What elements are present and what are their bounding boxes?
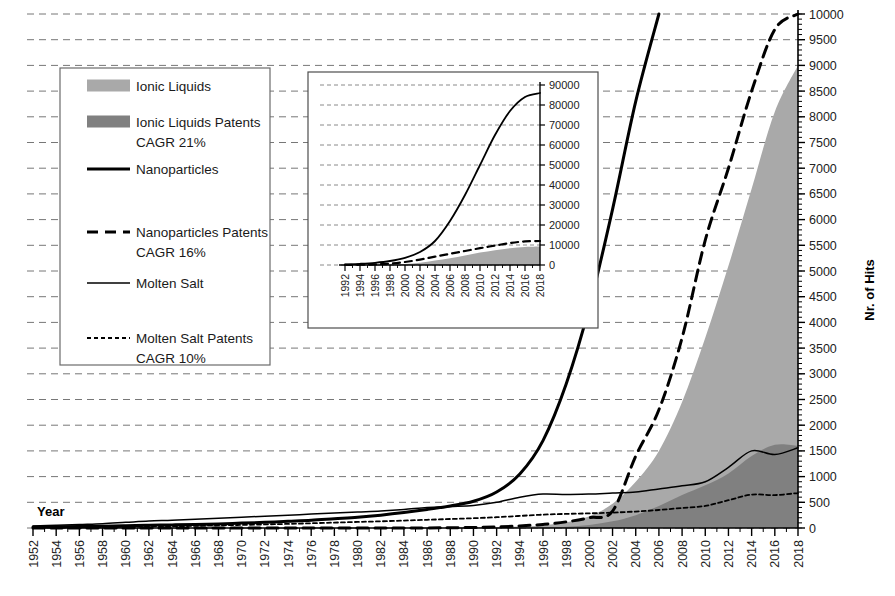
x-tick-label: 1982	[374, 540, 388, 568]
y-axis-title: Nr. of Hits	[862, 259, 877, 320]
y-tick-label: 5500	[809, 239, 837, 253]
y-tick-label: 6500	[809, 187, 837, 201]
x-tick-label: 2004	[629, 540, 643, 568]
x-tick-label: 1980	[351, 540, 365, 568]
inset-x-tick-label: 2014	[504, 274, 516, 298]
inset-y-tick-label: 20000	[549, 219, 580, 231]
inset-x-tick-label: 2012	[489, 274, 501, 298]
legend-box	[60, 68, 270, 365]
x-tick-label: 2006	[652, 540, 666, 568]
inset-x-tick-label: 1998	[384, 274, 396, 298]
inset-y-tick-label: 60000	[549, 139, 580, 151]
inset-chart: 0100002000030000400005000060000700008000…	[308, 72, 598, 328]
y-tick-label: 7000	[809, 162, 837, 176]
y-tick-label: 3500	[809, 342, 837, 356]
inset-y-tick-label: 80000	[549, 99, 580, 111]
x-tick-label: 1996	[537, 540, 551, 568]
y-tick-label: 1500	[809, 444, 837, 458]
x-tick-label: 1984	[397, 540, 411, 568]
y-tick-label: 5000	[809, 265, 837, 279]
x-tick-label: 1956	[73, 540, 87, 568]
y-tick-label: 9000	[809, 59, 837, 73]
x-tick-label: 1998	[560, 540, 574, 568]
x-tick-label: 1990	[467, 540, 481, 568]
x-tick-label: 2016	[768, 540, 782, 568]
x-tick-label: 1986	[421, 540, 435, 568]
x-tick-label: 2002	[606, 540, 620, 568]
y-tick-label: 4500	[809, 290, 837, 304]
y-tick-label: 4000	[809, 316, 837, 330]
chart-legend: Ionic LiquidsIonic Liquids PatentsCAGR 2…	[60, 68, 270, 366]
legend-label: Ionic Liquids Patents	[136, 115, 261, 130]
x-tick-label: 1962	[142, 540, 156, 568]
legend-sublabel: CAGR 10%	[136, 351, 206, 366]
inset-x-tick-label: 2010	[474, 274, 486, 298]
y-tick-label: 10000	[809, 8, 844, 22]
legend-label: Ionic Liquids	[136, 79, 211, 94]
inset-x-tick-label: 2004	[429, 274, 441, 298]
x-tick-label: 1960	[119, 540, 133, 568]
inset-y-tick-label: 40000	[549, 179, 580, 191]
x-tick-label: 1988	[444, 540, 458, 568]
x-tick-label: 2014	[745, 540, 759, 568]
y-tick-label: 500	[809, 496, 830, 510]
x-tick-label: 1952	[27, 540, 41, 568]
legend-label: Molten Salt Patents	[136, 331, 253, 346]
inset-x-tick-label: 2016	[519, 274, 531, 298]
x-tick-label: 1974	[282, 540, 296, 568]
inset-x-tick-label: 2018	[534, 274, 546, 298]
x-tick-label: 1964	[166, 540, 180, 568]
y-tick-label: 9500	[809, 33, 837, 47]
inset-y-tick-label: 0	[549, 259, 555, 271]
x-tick-label: 1966	[189, 540, 203, 568]
x-tick-label: 1958	[96, 540, 110, 568]
x-tick-label: 2008	[676, 540, 690, 568]
legend-label: Molten Salt	[136, 276, 204, 291]
legend-swatch	[87, 80, 130, 92]
inset-x-tick-label: 1994	[354, 274, 366, 298]
x-tick-label: 1972	[258, 540, 272, 568]
inset-x-tick-label: 2000	[399, 274, 411, 298]
legend-sublabel: CAGR 21%	[136, 135, 206, 150]
x-tick-label: 1978	[328, 540, 342, 568]
legend-label: Nanoparticles Patents	[136, 225, 268, 240]
y-tick-label: 6000	[809, 213, 837, 227]
x-tick-label: 1954	[50, 540, 64, 568]
x-tick-label: 1992	[490, 540, 504, 568]
inset-x-tick-label: 2002	[414, 274, 426, 298]
y-tick-label: 2500	[809, 393, 837, 407]
inset-x-tick-label: 2008	[459, 274, 471, 298]
inset-x-tick-label: 2006	[444, 274, 456, 298]
x-tick-label: 2010	[699, 540, 713, 568]
x-tick-label: 2018	[792, 540, 806, 568]
x-tick-label: 1968	[212, 540, 226, 568]
y-tick-label: 7500	[809, 136, 837, 150]
y-tick-label: 2000	[809, 419, 837, 433]
legend-swatch	[87, 116, 130, 128]
x-tick-label: 1994	[513, 540, 527, 568]
chart-figure: 0500100015002000250030003500400045005000…	[0, 0, 895, 596]
y-tick-label: 3000	[809, 367, 837, 381]
inset-x-tick-label: 1996	[369, 274, 381, 298]
inset-y-tick-label: 90000	[549, 79, 580, 91]
legend-label: Nanoparticles	[136, 162, 219, 177]
y-tick-label: 8000	[809, 110, 837, 124]
y-tick-label: 1000	[809, 470, 837, 484]
inset-y-tick-label: 50000	[549, 159, 580, 171]
inset-y-tick-label: 10000	[549, 239, 580, 251]
inset-y-tick-label: 70000	[549, 119, 580, 131]
x-tick-label: 2012	[722, 540, 736, 568]
x-axis-title: Year	[37, 504, 64, 519]
x-tick-label: 1970	[235, 540, 249, 568]
inset-x-tick-label: 1992	[339, 274, 351, 298]
x-tick-label: 1976	[305, 540, 319, 568]
inset-y-tick-label: 30000	[549, 199, 580, 211]
y-tick-label: 8500	[809, 85, 837, 99]
y-tick-label: 0	[809, 522, 816, 536]
publication-trends-chart: 0500100015002000250030003500400045005000…	[0, 0, 895, 596]
legend-sublabel: CAGR 16%	[136, 245, 206, 260]
x-tick-label: 2000	[583, 540, 597, 568]
